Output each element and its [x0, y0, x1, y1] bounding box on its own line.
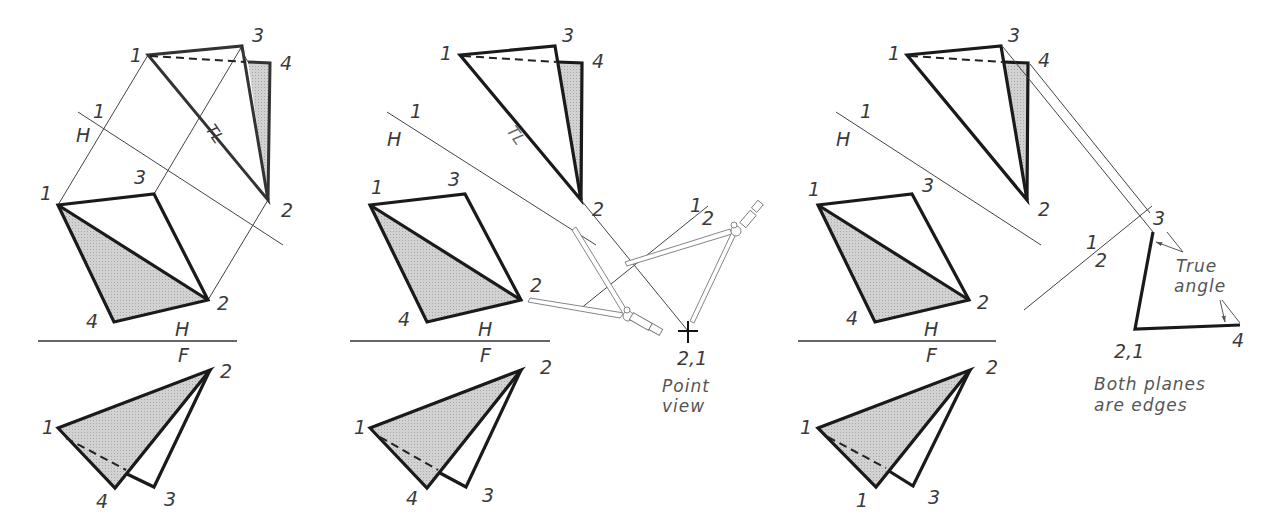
fold-label: 2 [1095, 249, 1107, 271]
vertex-label: 1 [40, 182, 52, 204]
vertex-label: 3 [1008, 24, 1020, 46]
vertex-label: 2 [1038, 198, 1050, 220]
dihedral-angle-figure: 1 H 1 3 4 2 TL 1 3 2 4 H F [0, 0, 1287, 530]
true-angle-note: True [1176, 256, 1217, 276]
point-view-note: Point [662, 376, 710, 396]
vertex-label: 2 [540, 356, 552, 378]
fold-label: 1 [410, 100, 422, 122]
vertex-label: 2 [281, 199, 293, 221]
fold-line-1-2 [1024, 206, 1152, 310]
vertex-label: 2 [530, 274, 542, 296]
vertex-label: 2 [217, 292, 229, 314]
vertex-label: 3 [928, 486, 940, 508]
auxiliary-view [460, 46, 582, 200]
conclusion-note: Both planes [1094, 374, 1206, 394]
vertex-label: 3 [134, 166, 146, 188]
fold-label: H [836, 128, 850, 150]
dividers-tool [528, 200, 763, 335]
vertex-label: 1 [440, 42, 452, 64]
conclusion-note: are edges [1094, 395, 1188, 415]
fold-label: 1 [690, 194, 702, 216]
fold-label: 1 [93, 100, 105, 122]
vertex-label: 2 [220, 360, 232, 382]
vertex-label: 4 [398, 308, 410, 330]
vertex-label: 3 [448, 168, 460, 190]
panel-step-2: 1 H 1 3 4 2 TL 1 2 [350, 24, 763, 509]
vertex-label: 2,1 [1114, 340, 1144, 362]
fold-label: H [924, 318, 938, 340]
vertex-label: 1 [371, 176, 383, 198]
fold-label: 2 [702, 207, 714, 229]
point-view-marker [678, 321, 698, 343]
projection-line [1030, 64, 1150, 213]
auxiliary-view [148, 46, 270, 200]
vertex-label: 3 [252, 24, 264, 46]
vertex-label: 1 [354, 416, 366, 438]
vertex-label: 3 [562, 24, 574, 46]
vertex-label: 1 [800, 416, 812, 438]
vertex-label: 2 [592, 198, 604, 220]
panel-step-1: 1 H 1 3 4 2 TL 1 3 2 4 H F [38, 24, 293, 512]
vertex-label: 4 [592, 50, 604, 72]
top-view [818, 194, 969, 322]
vertex-label: 3 [164, 488, 176, 510]
vertex-label: 3 [482, 484, 494, 506]
fold-line-h-1 [78, 112, 283, 245]
fold-label: F [178, 344, 190, 366]
front-view [818, 370, 970, 487]
fold-label: H [478, 318, 492, 340]
point-view-label: 2,1 [677, 347, 707, 369]
front-view [58, 370, 210, 488]
vertex-label: 1 [42, 416, 54, 438]
vertex-label: 4 [280, 52, 292, 74]
fold-label: 1 [860, 100, 872, 122]
vertex-label: 1 [130, 44, 142, 66]
vertex-label: 4 [96, 490, 108, 512]
vertex-label: 2 [977, 291, 989, 313]
vertex-label: 3 [1153, 207, 1165, 229]
true-length-label: TL [503, 122, 529, 148]
vertex-label: 2 [986, 356, 998, 378]
front-view [370, 370, 521, 488]
vertex-label: 3 [922, 174, 934, 196]
fold-label: H [76, 124, 90, 146]
fold-label: H [387, 128, 401, 150]
fold-label: H [175, 318, 189, 340]
vertex-label: 1 [888, 42, 900, 64]
vertex-label: 4 [846, 307, 858, 329]
vertex-label: 4 [1232, 329, 1244, 351]
vertex-label: 4 [1038, 49, 1050, 71]
vertex-label: 1 [808, 178, 820, 200]
vertex-label: 4 [406, 487, 418, 509]
fold-label: F [926, 344, 938, 366]
vertex-label: 4 [86, 310, 98, 332]
true-angle-note: angle [1174, 276, 1226, 296]
vertex-label: 1 [856, 489, 868, 511]
top-view [370, 194, 521, 322]
top-view [58, 194, 208, 322]
panel-step-3: 1 H 1 3 4 2 1 2 3 2,1 4 [798, 24, 1244, 511]
point-view-note: view [662, 396, 705, 416]
fold-label: F [480, 344, 492, 366]
